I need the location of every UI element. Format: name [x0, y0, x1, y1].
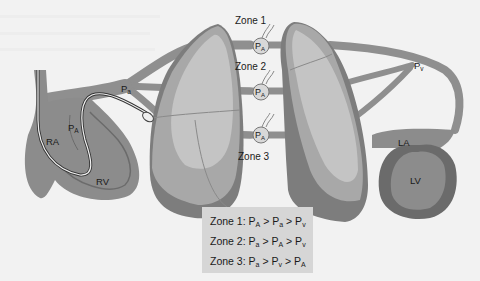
- zone-1-label: Zone 1: [235, 15, 267, 26]
- legend-row-zone-1: Zone 1: PA > Pa > Pv: [210, 211, 313, 231]
- left-heart: [372, 129, 457, 219]
- zone-2-label: Zone 2: [235, 61, 267, 72]
- background-texture: [0, 15, 160, 51]
- rv-label: RV: [96, 176, 110, 187]
- right-lung: [281, 22, 369, 222]
- legend-row-zone-3: Zone 3: Pa > Pv > PA: [210, 251, 313, 271]
- lv-label: LV: [410, 175, 422, 186]
- zone-pressure-legend: Zone 1: PA > Pa > Pv Zone 2: Pa > PA > P…: [202, 207, 313, 273]
- left-lung: [150, 24, 244, 218]
- la-label: LA: [398, 137, 410, 148]
- zone-3-label: Zone 3: [238, 151, 270, 162]
- ra-label: RA: [46, 136, 60, 147]
- legend-row-zone-2: Zone 2: Pa > PA > Pv: [210, 231, 313, 251]
